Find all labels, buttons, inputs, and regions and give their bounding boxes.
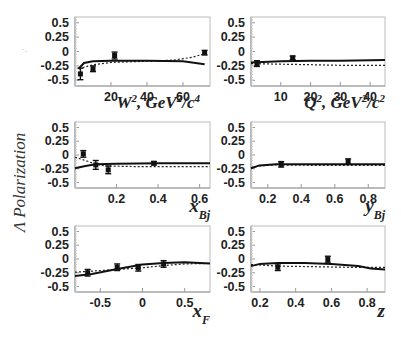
data-point [80, 151, 86, 158]
y-tick-label: 0.5 [228, 121, 245, 135]
data-point [345, 159, 351, 165]
y-tick-label: -0.5 [223, 73, 245, 87]
x-axis-title: W2, GeV2/c4 [116, 92, 200, 112]
panel-yBj: 0.50.250-0.25-0.50.20.40.60.8yBj [217, 121, 386, 223]
y-tick-label: -0.5 [223, 176, 245, 190]
x-axis-title: Q2, GeV2/c2 [304, 92, 385, 112]
data-point [161, 261, 167, 268]
panel-Q2: 0.50.250-0.25-0.510203040Q2, GeV2/c2 [217, 16, 386, 112]
x-tick-label: 0.6 [323, 296, 340, 310]
y-tick-label: 0 [238, 148, 245, 162]
dotted-curve [251, 64, 385, 66]
stray-mark: ·. [22, 45, 27, 54]
y-axis-title: Λ Polarization [10, 133, 29, 234]
y-tick-label: 0.25 [45, 134, 69, 148]
data-point [254, 61, 260, 67]
solid-curve [79, 61, 205, 69]
data-point [151, 161, 157, 166]
x-tick-label: 0.2 [108, 192, 125, 206]
figure: Λ Polarization ·. 0.50.250-0.25-0.520406… [0, 0, 401, 339]
data-point [202, 50, 208, 55]
data-point [105, 166, 111, 174]
y-tick-label: 0.25 [45, 238, 69, 252]
y-tick-label: 0.25 [221, 134, 245, 148]
panel-z: 0.50.250-0.25-0.50.20.40.60.8z [217, 225, 386, 322]
data-point [93, 161, 99, 170]
x-tick-label: 10 [274, 90, 288, 104]
y-tick-label: -0.25 [41, 266, 70, 280]
y-tick-label: -0.5 [47, 176, 69, 190]
data-point [275, 264, 281, 271]
plot-frame [251, 122, 385, 188]
x-axis-title: z [377, 300, 386, 321]
y-tick-label: -0.25 [41, 162, 70, 176]
x-tick-label: 0.5 [176, 296, 193, 310]
y-tick-label: 0 [62, 252, 69, 266]
solid-curve [251, 164, 385, 168]
x-tick-label: 0.2 [259, 192, 276, 206]
x-tick-label: 0.8 [358, 296, 375, 310]
y-tick-label: 0.25 [221, 30, 245, 44]
plot-frame [75, 17, 210, 86]
data-point [278, 162, 284, 168]
panel-xF: 0.50.250-0.25-0.5-0.500.5xF [41, 225, 211, 328]
data-point [290, 55, 296, 60]
solid-curve [75, 262, 210, 276]
data-point [135, 265, 141, 272]
y-tick-label: -0.25 [217, 59, 246, 73]
plot-frame [75, 122, 210, 188]
data-point [325, 256, 331, 263]
data-point [114, 264, 120, 271]
x-tick-label: 0.2 [251, 296, 268, 310]
y-tick-label: 0 [62, 45, 69, 59]
data-point [77, 68, 83, 80]
x-axis-title: xF [191, 300, 210, 327]
y-tick-label: -0.25 [217, 162, 246, 176]
panel-xBj: 0.50.250-0.25-0.50.20.40.6xBj [41, 121, 211, 223]
x-tick-label: 0.4 [287, 296, 304, 310]
y-tick-label: -0.5 [47, 73, 69, 87]
y-tick-label: -0.5 [47, 280, 69, 294]
x-tick-label: 0 [139, 296, 146, 310]
y-tick-label: -0.5 [223, 280, 245, 294]
y-tick-label: 0.5 [52, 225, 69, 239]
data-point [85, 269, 91, 276]
y-tick-label: 0.5 [52, 16, 69, 30]
x-tick-label: 0.4 [293, 192, 310, 206]
solid-curve [251, 60, 385, 62]
y-tick-label: 0.25 [221, 238, 245, 252]
x-tick-label: 0.6 [326, 192, 343, 206]
y-tick-label: -0.25 [217, 266, 246, 280]
data-point [112, 52, 118, 59]
y-tick-label: 0.25 [45, 30, 69, 44]
plot-frame [251, 17, 385, 86]
y-tick-label: 0 [238, 45, 245, 59]
x-tick-label: 0.4 [149, 192, 166, 206]
y-tick-label: 0.5 [52, 121, 69, 135]
plot-frame [75, 226, 210, 292]
x-tick-label: -0.5 [90, 296, 112, 310]
y-tick-label: 0.5 [228, 16, 245, 30]
y-tick-label: -0.25 [41, 59, 70, 73]
panel-W2: 0.50.250-0.25-0.5204060W2, GeV2/c4 [41, 16, 211, 112]
y-tick-label: 0.5 [228, 225, 245, 239]
y-tick-label: 0 [238, 252, 245, 266]
plot-frame [251, 226, 385, 292]
data-point [90, 66, 96, 72]
y-tick-label: 0 [62, 148, 69, 162]
